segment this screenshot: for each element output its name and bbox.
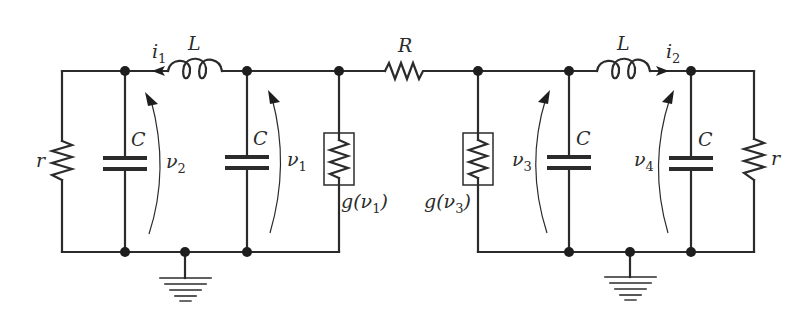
node-ground-left [180, 247, 190, 257]
node-top-v1 [242, 66, 252, 76]
label-v1: ν1 [287, 148, 307, 174]
node-bottom-v2 [120, 247, 130, 257]
ground-right [605, 252, 656, 300]
label-C-v4: C [698, 128, 713, 150]
label-r-right: r [771, 147, 782, 169]
inductor-L-left [168, 59, 222, 79]
label-g-v1: g(ν1) [341, 190, 388, 216]
label-v3: ν3 [512, 148, 532, 174]
ground-left [160, 252, 211, 301]
label-g-v3: g(ν3) [424, 190, 471, 216]
capacitor-v3 [547, 157, 591, 168]
capacitor-v4 [669, 158, 713, 169]
label-C-v3: C [576, 127, 591, 149]
resistor-R-coupling [385, 63, 427, 79]
node-top-v4 [686, 66, 696, 76]
node-ground-right [625, 247, 635, 257]
node-bottom-v4 [686, 247, 696, 257]
voltage-arrow-v2 [145, 92, 160, 234]
nonlinear-conductance-g-v3 [463, 133, 493, 185]
voltage-arrow-v4 [658, 90, 674, 233]
label-i1: i1 [152, 40, 166, 66]
node-top-v3 [564, 66, 574, 76]
label-v4: ν4 [634, 148, 654, 174]
node-bottom-v3 [564, 247, 574, 257]
label-C-v1: C [253, 127, 268, 149]
capacitor-v2 [103, 158, 147, 169]
circuit-diagram: r C ν2 L i1 C ν1 g(ν1) [0, 0, 812, 319]
resistor-r-left [52, 141, 72, 180]
label-r-left: r [36, 149, 47, 171]
label-L-left: L [187, 32, 201, 54]
capacitor-v1 [225, 157, 269, 168]
nonlinear-conductance-g-v1 [324, 133, 354, 185]
label-i2: i2 [666, 40, 680, 66]
label-C-v2: C [131, 128, 146, 150]
inductor-L-right [597, 59, 650, 79]
voltage-arrow-v3 [536, 90, 550, 233]
label-R: R [397, 34, 412, 56]
resistor-r-right [744, 139, 764, 180]
label-v2: ν2 [166, 150, 186, 176]
node-bottom-v1 [242, 247, 252, 257]
node-top-g3 [473, 66, 483, 76]
junction-nodes [120, 66, 696, 257]
node-top-g1 [334, 66, 344, 76]
node-top-v2 [120, 66, 130, 76]
voltage-arrow-v1 [268, 90, 281, 233]
label-L-right: L [616, 32, 630, 54]
